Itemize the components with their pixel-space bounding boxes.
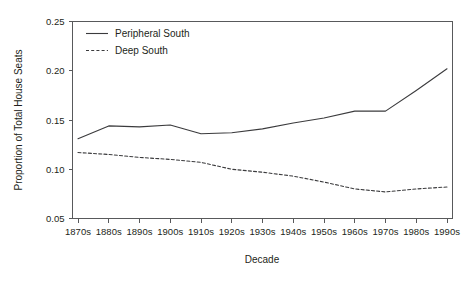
- x-axis-tick-labels: 1870s1880s1890s1900s1910s1920s1930s1940s…: [65, 226, 460, 237]
- y-axis-tick-label: 0.25: [46, 16, 65, 27]
- legend-label-deep-south: Deep South: [115, 45, 168, 56]
- x-axis-tick-label: 1910s: [188, 226, 214, 237]
- series-group: [78, 69, 447, 192]
- x-axis-ticks: [78, 219, 447, 223]
- y-axis-ticks: [69, 22, 73, 219]
- legend-label-peripheral-south: Peripheral South: [115, 28, 190, 39]
- x-axis-tick-label: 1890s: [127, 226, 153, 237]
- x-axis-tick-label: 1960s: [342, 226, 368, 237]
- x-axis-tick-label: 1940s: [280, 226, 306, 237]
- series-line-deep-south: [78, 153, 447, 192]
- chart-legend: Peripheral South Deep South: [86, 28, 190, 56]
- x-axis-tick-label: 1920s: [219, 226, 245, 237]
- chart-figure: 0.050.100.150.200.25 1870s1880s1890s1900…: [0, 0, 471, 281]
- y-axis-tick-label: 0.10: [46, 164, 65, 175]
- x-axis-tick-label: 1880s: [96, 226, 122, 237]
- x-axis-title: Decade: [245, 254, 280, 265]
- x-axis-tick-label: 1870s: [65, 226, 91, 237]
- line-chart: 0.050.100.150.200.25 1870s1880s1890s1900…: [0, 0, 471, 281]
- y-axis-title: Proportion of Total House Seats: [13, 49, 24, 190]
- x-axis-tick-label: 1970s: [373, 226, 399, 237]
- y-axis-tick-label: 0.15: [46, 115, 65, 126]
- y-axis-tick-label: 0.20: [46, 65, 65, 76]
- y-axis-tick-labels: 0.050.100.150.200.25: [46, 16, 65, 224]
- x-axis-tick-label: 1900s: [157, 226, 183, 237]
- series-line-peripheral-south: [78, 69, 447, 139]
- x-axis-tick-label: 1980s: [403, 226, 429, 237]
- x-axis-tick-label: 1930s: [250, 226, 276, 237]
- x-axis-tick-label: 1950s: [311, 226, 337, 237]
- x-axis-tick-label: 1990s: [434, 226, 460, 237]
- y-axis-tick-label: 0.05: [46, 213, 65, 224]
